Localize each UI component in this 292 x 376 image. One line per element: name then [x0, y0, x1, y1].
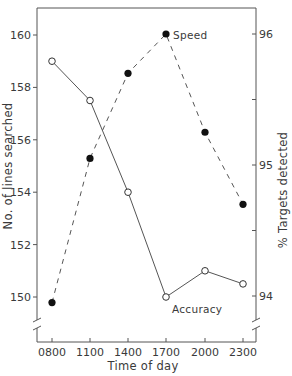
accuracy-marker-open-circle [87, 97, 94, 104]
x-axis-title: Time of day [107, 359, 179, 373]
speed-marker-filled-circle [201, 129, 208, 136]
series-speed [48, 30, 246, 306]
left-tick-label: 152 [10, 239, 31, 252]
right-y-axis-title: % Targets detected [276, 132, 290, 248]
speed-marker-filled-circle [162, 30, 169, 37]
left-tick-label: 158 [10, 81, 31, 94]
left-y-axis-title: No. of lines searched [1, 103, 15, 230]
accuracy-line [52, 61, 243, 297]
x-tick-label: 1400 [114, 346, 142, 359]
speed-line [52, 34, 243, 303]
series-accuracy [49, 58, 247, 300]
plot-frame [33, 8, 260, 342]
dual-axis-line-chart: 150152154156158160 949596 08001100140017… [0, 0, 292, 376]
left-tick-label: 150 [10, 291, 31, 304]
speed-marker-filled-circle [124, 70, 131, 77]
accuracy-series-label: Accuracy [172, 303, 222, 315]
right-tick-label: 94 [259, 290, 273, 303]
x-tick-label: 0800 [38, 346, 66, 359]
accuracy-marker-open-circle [163, 294, 170, 301]
accuracy-marker-open-circle [202, 268, 209, 275]
x-tick-label: 2300 [229, 346, 257, 359]
accuracy-marker-open-circle [49, 58, 56, 65]
x-tick-label: 1700 [152, 346, 180, 359]
right-tick-label: 95 [259, 159, 273, 172]
right-y-axis: 949596 [252, 28, 273, 303]
accuracy-marker-open-circle [125, 189, 132, 196]
speed-marker-filled-circle [239, 201, 246, 208]
x-axis: 080011001400170020002300 [38, 338, 257, 359]
speed-series-label: Speed [173, 29, 207, 41]
x-tick-label: 1100 [76, 346, 104, 359]
x-tick-label: 2000 [191, 346, 219, 359]
speed-marker-filled-circle [86, 155, 93, 162]
speed-marker-filled-circle [48, 299, 55, 306]
left-tick-label: 160 [10, 29, 31, 42]
right-tick-label: 96 [259, 28, 273, 41]
accuracy-marker-open-circle [240, 281, 247, 288]
